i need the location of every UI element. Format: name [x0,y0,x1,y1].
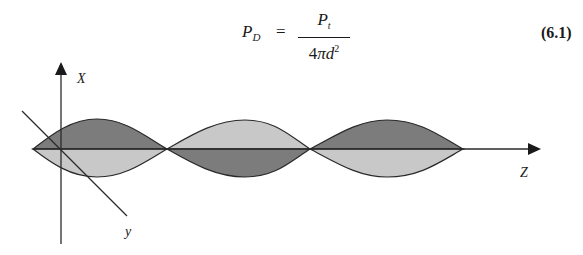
y-axis-label: y [123,224,132,239]
lobe-2-bottom [167,149,310,177]
x-axis-arrow-icon [55,62,67,75]
lobe-1-top [33,119,167,149]
lobe-1 [33,119,167,177]
lobe-1-bottom [33,149,167,177]
lobe-3-top [310,120,463,149]
standing-wave-diagram: X y Z [0,0,583,255]
z-axis-label: Z [520,165,528,180]
lobe-3-bottom [310,149,463,177]
x-axis-label: X [76,71,86,86]
z-axis-arrow-icon [528,143,541,155]
lobe-2-top [167,120,310,149]
